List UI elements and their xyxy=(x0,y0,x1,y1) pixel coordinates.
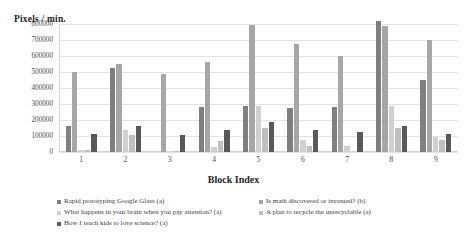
legend-item xyxy=(259,218,457,229)
bar-group: 4 xyxy=(192,24,236,152)
x-tick-label: 1 xyxy=(59,155,103,164)
legend-row: What happens in your brain when you pay … xyxy=(57,207,457,218)
bar xyxy=(427,40,432,152)
bar-group: 2 xyxy=(103,24,147,152)
bar-group: 8 xyxy=(369,24,413,152)
y-tick-label: 800000 xyxy=(0,20,53,28)
bar-chart: Pixels / min. 123456789 0100000200000300… xyxy=(0,0,467,242)
bar xyxy=(116,64,121,152)
legend-swatch-icon xyxy=(57,222,61,226)
y-tick-label: 300000 xyxy=(0,100,53,108)
bar-groups: 123456789 xyxy=(59,24,458,152)
bar-group: 3 xyxy=(148,24,192,152)
bar xyxy=(446,134,451,152)
bar xyxy=(376,21,381,152)
legend-label: Is math discovered or invented? (b) xyxy=(266,196,365,207)
bar xyxy=(389,106,394,152)
bar xyxy=(256,106,261,152)
legend-item[interactable]: What happens in your brain when you pay … xyxy=(57,207,259,218)
bar xyxy=(420,80,425,152)
legend-swatch-icon xyxy=(57,200,61,204)
bar xyxy=(174,151,179,152)
y-tick-label: 600000 xyxy=(0,52,53,60)
bar xyxy=(218,141,223,152)
bar xyxy=(269,122,274,152)
bar xyxy=(344,146,349,152)
bar xyxy=(307,146,312,152)
bar-group: 7 xyxy=(325,24,369,152)
x-tick-label: 5 xyxy=(236,155,280,164)
legend-swatch-icon xyxy=(259,200,263,204)
legend-item[interactable]: Is math discovered or invented? (b) xyxy=(259,196,457,207)
y-tick-label: 100000 xyxy=(0,132,53,140)
bar xyxy=(110,68,115,152)
bar xyxy=(224,130,229,152)
bar xyxy=(357,132,362,152)
legend-label: How I teach kids to love science? (a) xyxy=(64,218,168,229)
x-tick-label: 3 xyxy=(148,155,192,164)
bar xyxy=(211,147,216,152)
bar xyxy=(439,140,444,152)
x-tick-label: 2 xyxy=(103,155,147,164)
legend-row: How I teach kids to love science? (a) xyxy=(57,218,457,229)
bar xyxy=(78,150,83,152)
bar xyxy=(136,126,141,152)
bar xyxy=(262,128,267,152)
legend-swatch-icon xyxy=(57,211,61,215)
y-tick-label: 0 xyxy=(0,148,53,156)
legend-row: Rapid prototyping Google Glass (a)Is mat… xyxy=(57,196,457,207)
gridline xyxy=(59,152,458,153)
bar xyxy=(287,108,292,152)
legend-item[interactable]: A plan to recycle the unrecyclable (a) xyxy=(259,207,457,218)
bar-group: 9 xyxy=(414,24,458,152)
bar-group: 1 xyxy=(59,24,103,152)
bar xyxy=(402,126,407,152)
bar xyxy=(338,56,343,152)
y-tick-label: 400000 xyxy=(0,84,53,92)
bar xyxy=(180,135,185,152)
bar xyxy=(66,126,71,152)
bar xyxy=(123,130,128,152)
bar xyxy=(72,72,77,152)
bar xyxy=(85,150,90,152)
x-tick-label: 9 xyxy=(414,155,458,164)
x-tick-label: 7 xyxy=(325,155,369,164)
bar xyxy=(382,26,387,152)
bar xyxy=(332,107,337,152)
bar xyxy=(395,128,400,152)
bar xyxy=(205,62,210,152)
x-tick-label: 6 xyxy=(281,155,325,164)
x-axis-title: Block Index xyxy=(0,174,467,185)
legend-label: Rapid prototyping Google Glass (a) xyxy=(64,196,164,207)
plot-area: 123456789 xyxy=(59,24,458,152)
bar-group: 6 xyxy=(281,24,325,152)
bar xyxy=(313,130,318,152)
chart-legend: Rapid prototyping Google Glass (a)Is mat… xyxy=(57,196,457,229)
y-tick-label: 700000 xyxy=(0,36,53,44)
legend-label: What happens in your brain when you pay … xyxy=(64,207,222,218)
x-tick-label: 4 xyxy=(192,155,236,164)
y-tick-label: 200000 xyxy=(0,116,53,124)
x-tick-label: 8 xyxy=(369,155,413,164)
y-tick-label: 500000 xyxy=(0,68,53,76)
bar xyxy=(300,140,305,152)
legend-item[interactable]: Rapid prototyping Google Glass (a) xyxy=(57,196,259,207)
bar xyxy=(129,135,134,152)
legend-label: A plan to recycle the unrecyclable (a) xyxy=(266,207,371,218)
legend-item[interactable]: How I teach kids to love science? (a) xyxy=(57,218,259,229)
bar xyxy=(161,74,166,152)
bar xyxy=(243,106,248,152)
bar xyxy=(294,44,299,152)
bar xyxy=(91,134,96,152)
bar xyxy=(199,107,204,152)
bar xyxy=(249,25,254,152)
legend-swatch-icon xyxy=(259,211,263,215)
bar-group: 5 xyxy=(236,24,280,152)
bar xyxy=(433,137,438,152)
